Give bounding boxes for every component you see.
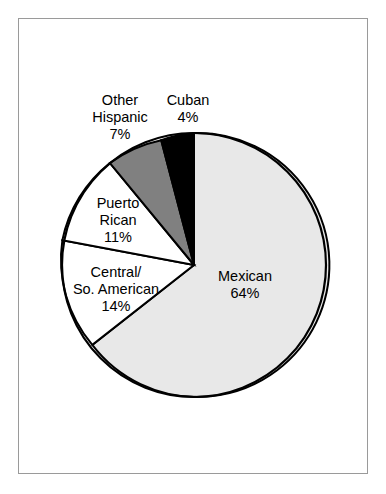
pie-label-cuban-value: 4% bbox=[146, 109, 230, 126]
pie-label-mexican-value: 64% bbox=[200, 285, 290, 302]
pie-label-central-so-american: Central/ So. American 14% bbox=[56, 264, 176, 315]
pie-label-other-hispanic-value: 7% bbox=[78, 126, 162, 143]
pie-label-puerto-rican-line2: Rican bbox=[76, 212, 160, 229]
pie-label-cuban: Cuban 4% bbox=[146, 92, 230, 126]
pie-label-puerto-rican-value: 11% bbox=[76, 229, 160, 246]
pie-chart: Other Hispanic 7% Cuban 4% Puerto Rican … bbox=[0, 0, 386, 494]
pie-label-cuban-line1: Cuban bbox=[146, 92, 230, 109]
pie-label-mexican: Mexican 64% bbox=[200, 268, 290, 302]
chart-page: Other Hispanic 7% Cuban 4% Puerto Rican … bbox=[0, 0, 386, 494]
pie-label-central-line1: Central/ bbox=[56, 264, 176, 281]
pie-label-central-line2: So. American bbox=[56, 281, 176, 298]
pie-label-central-value: 14% bbox=[56, 298, 176, 315]
pie-chart-svg bbox=[0, 0, 386, 494]
pie-label-puerto-rican: Puerto Rican 11% bbox=[76, 195, 160, 246]
pie-label-mexican-line1: Mexican bbox=[200, 268, 290, 285]
pie-label-puerto-rican-line1: Puerto bbox=[76, 195, 160, 212]
